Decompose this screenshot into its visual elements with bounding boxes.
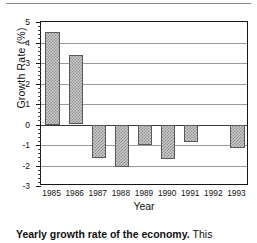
y-tick-label: 5 — [25, 17, 30, 27]
y-tick-label: -1 — [22, 140, 30, 150]
y-tick-label: -2 — [22, 161, 30, 171]
caption-tail: This — [193, 228, 213, 240]
y-tick-label: 4 — [25, 38, 30, 48]
x-tick-label-1986: 1986 — [65, 188, 83, 198]
x-axis-title: Year — [40, 200, 248, 212]
bar-chart: Growth Rate (%) 543210-1-2-3 19851986198… — [0, 8, 257, 216]
bar-1987 — [92, 125, 106, 159]
figure-page: Growth Rate (%) 543210-1-2-3 19851986198… — [0, 0, 257, 243]
y-tick-label: -3 — [22, 181, 30, 191]
y-tick-label: 0 — [25, 120, 30, 130]
x-tick-label-1988: 1988 — [112, 188, 130, 198]
x-tick-label-1990: 1990 — [158, 188, 176, 198]
bar-1991 — [184, 125, 198, 142]
figure-caption: Yearly growth rate of the economy. This — [16, 228, 244, 240]
y-tick-label: 3 — [25, 58, 30, 68]
bars-group — [41, 22, 247, 184]
x-tick-label-1985: 1985 — [42, 188, 60, 198]
x-tick-label-1993: 1993 — [227, 188, 245, 198]
bar-1989 — [138, 125, 152, 146]
y-tick-label: 2 — [25, 79, 30, 89]
top-divider — [6, 3, 251, 4]
x-tick-label-1989: 1989 — [135, 188, 153, 198]
bar-1988 — [115, 125, 129, 167]
x-tick-label-1992: 1992 — [204, 188, 222, 198]
caption-lead: Yearly growth rate of the economy. — [16, 228, 190, 240]
bar-1986 — [69, 55, 83, 125]
x-tick-label-1987: 1987 — [89, 188, 107, 198]
bar-1985 — [45, 32, 59, 124]
y-tick--3: -3 — [36, 186, 41, 187]
bar-1993 — [230, 125, 244, 149]
bar-1990 — [161, 125, 175, 160]
x-tick-label-1991: 1991 — [181, 188, 199, 198]
plot-area: 543210-1-2-3 — [40, 21, 248, 185]
y-tick-label: 1 — [25, 99, 30, 109]
